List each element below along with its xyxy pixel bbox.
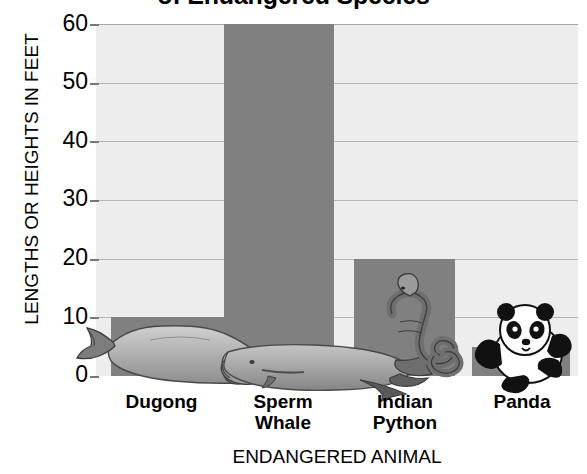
x-tick-line: Whale [222,413,344,434]
bar-chart-figure: of Endangered Species LENGTHS OR HEIGHTS… [0,0,587,474]
y-tick-mark-10 [90,317,99,319]
y-tick-mark-0 [90,376,99,378]
y-tick-mark-40 [90,141,99,143]
x-tick-line: Sperm [222,392,344,413]
x-tick-line: Panda [466,392,578,413]
y-tick-label-10: 10 [44,305,88,328]
y-tick-label-30: 30 [44,187,88,210]
y-tick-mark-30 [90,200,99,202]
x-tick-label-panda: Panda [466,392,578,413]
y-tick-label-50: 50 [44,70,88,93]
x-axis-label: ENDANGERED ANIMAL [96,446,578,468]
y-tick-label-60: 60 [44,12,88,35]
x-tick-line: Indian [348,392,462,413]
y-tick-label-40: 40 [44,129,88,152]
y-tick-mark-60 [90,24,99,26]
y-tick-label-20: 20 [44,246,88,269]
y-tick-mark-20 [90,259,99,261]
y-tick-label-0: 0 [44,363,88,386]
x-tick-line: Python [348,413,462,434]
y-tick-mark-50 [90,83,99,85]
x-tick-label-indian-python: Indian Python [348,392,462,433]
x-tick-line: Dugong [96,392,227,413]
x-tick-label-sperm-whale: Sperm Whale [222,392,344,433]
x-tick-label-dugong: Dugong [96,392,227,413]
